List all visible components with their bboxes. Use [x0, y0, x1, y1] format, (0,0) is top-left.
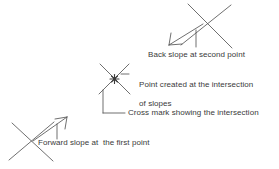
cross-mark-second-point: [181, 4, 232, 48]
label-back-slope: Back slope at second point: [148, 50, 245, 60]
created-point-marker: [110, 75, 119, 84]
label-point-created-line2: of slopes: [139, 99, 171, 108]
diagram-canvas: Back slope at second point Point created…: [0, 0, 279, 169]
leader-cross-mark: [103, 90, 125, 113]
label-cross-mark: Cross mark showing the intersection: [128, 108, 259, 118]
back-slope-arrow: [169, 24, 203, 45]
label-point-created-line1: Point created at the intersection: [139, 80, 253, 89]
label-forward-slope: Forward slope at the first point: [38, 138, 149, 148]
